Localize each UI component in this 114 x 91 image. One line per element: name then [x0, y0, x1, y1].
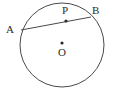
point-label-b: B [92, 5, 99, 16]
point-p-dot [64, 19, 67, 22]
geometry-figure: A P B O [0, 0, 114, 91]
point-label-a: A [6, 24, 14, 35]
point-label-o: O [58, 47, 66, 58]
point-label-p: P [62, 5, 68, 16]
point-o-dot [60, 41, 63, 44]
chord-ab-line [21, 17, 91, 30]
